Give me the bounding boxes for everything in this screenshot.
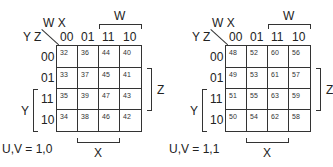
cell: 45	[99, 68, 120, 89]
bracket-w	[99, 24, 142, 29]
bracket-w-label: W	[114, 10, 125, 22]
map-caption: U,V = 1,1	[169, 143, 219, 155]
kmap-uv-10: W X Y Z 00 01 11 10 00 01 11 10 32 36 44…	[0, 0, 166, 167]
cell: 41	[120, 68, 141, 89]
cell: 59	[289, 89, 310, 110]
cell: 57	[289, 68, 310, 89]
col-header: 10	[292, 31, 305, 43]
cell: 60	[268, 46, 289, 68]
cell: 63	[268, 89, 289, 110]
bracket-z	[316, 68, 321, 111]
cell: 43	[120, 89, 141, 110]
corner-label-yz: Y Z	[192, 31, 210, 43]
kmap-grid: 48 52 60 56 49 53 61 57 51 55 63 59 50 5…	[225, 45, 311, 132]
cell: 47	[99, 89, 120, 110]
bracket-z-label: Z	[157, 84, 164, 96]
corner-label-wx: W X	[212, 17, 235, 29]
col-header: 11	[102, 31, 114, 43]
bracket-x	[77, 138, 120, 143]
row-header: 10	[210, 114, 223, 126]
cell: 35	[57, 89, 78, 110]
bracket-y-label: Y	[21, 105, 29, 117]
cell: 42	[120, 110, 141, 131]
cell: 46	[99, 110, 120, 131]
corner-label-wx: W X	[43, 17, 66, 29]
bracket-y-label: Y	[190, 105, 198, 117]
col-header: 11	[271, 31, 283, 43]
cell: 39	[78, 89, 99, 110]
bracket-x	[246, 138, 289, 143]
cell: 51	[226, 89, 247, 110]
bracket-y	[33, 89, 38, 132]
row-header: 11	[41, 93, 53, 105]
cell: 34	[57, 110, 78, 131]
cell: 56	[289, 46, 310, 68]
cell: 55	[247, 89, 268, 110]
row-header: 01	[210, 72, 223, 84]
cell: 37	[78, 68, 99, 89]
cell: 49	[226, 68, 247, 89]
row-header: 01	[41, 72, 54, 84]
cell: 33	[57, 68, 78, 89]
cell: 52	[247, 46, 268, 68]
bracket-z-label: Z	[326, 84, 333, 96]
cell: 61	[268, 68, 289, 89]
row-header: 00	[210, 51, 223, 63]
corner-diagonal	[210, 29, 228, 45]
bracket-x-label: X	[263, 147, 271, 159]
kmap-grid: 32 36 44 40 33 37 45 41 35 39 47 43 34 3…	[56, 45, 142, 132]
cell: 50	[226, 110, 247, 131]
cell: 44	[99, 46, 120, 68]
cell: 32	[57, 46, 78, 68]
corner-label-yz: Y Z	[23, 31, 41, 43]
cell: 48	[226, 46, 247, 68]
cell: 38	[78, 110, 99, 131]
bracket-x-label: X	[94, 147, 102, 159]
cell: 40	[120, 46, 141, 68]
row-header: 10	[41, 114, 54, 126]
bracket-y	[202, 89, 207, 132]
bracket-z	[147, 68, 152, 111]
cell: 54	[247, 110, 268, 131]
corner-diagonal	[41, 29, 59, 45]
col-header: 01	[250, 31, 263, 43]
row-header: 11	[210, 93, 222, 105]
col-header: 01	[81, 31, 94, 43]
col-header: 10	[123, 31, 136, 43]
cell: 62	[268, 110, 289, 131]
row-header: 00	[41, 51, 54, 63]
col-header: 00	[60, 31, 73, 43]
col-header: 00	[229, 31, 242, 43]
kmap-uv-11: W X Y Z 00 01 11 10 00 01 11 10 48 52 60…	[167, 0, 333, 167]
bracket-w-label: W	[283, 10, 294, 22]
cell: 58	[289, 110, 310, 131]
bracket-w	[268, 24, 311, 29]
cell: 53	[247, 68, 268, 89]
map-caption: U,V = 1,0	[2, 143, 52, 155]
cell: 36	[78, 46, 99, 68]
